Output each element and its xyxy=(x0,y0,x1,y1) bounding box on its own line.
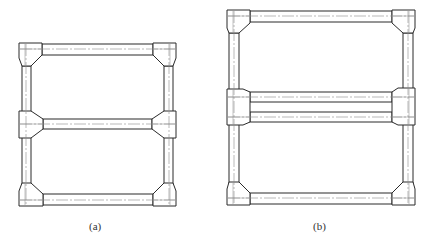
frame-b xyxy=(227,10,415,205)
beam-b-top xyxy=(250,11,392,22)
beam-a-bottom xyxy=(43,194,153,205)
joint-a-bottom-right xyxy=(153,183,176,206)
joint-b-bottom-left xyxy=(227,182,250,205)
joint-a-top-left xyxy=(19,43,42,66)
caption-b: (b) xyxy=(313,220,326,232)
joint-b-middle-right xyxy=(392,88,415,125)
joint-b-middle-left xyxy=(227,89,250,125)
column-a-right-upper xyxy=(164,66,173,112)
beam-a-top xyxy=(42,44,153,55)
joint-a-middle-left xyxy=(19,111,43,138)
frame-diagram xyxy=(0,0,426,247)
column-a-right-lower xyxy=(164,136,173,184)
joint-b-top-right xyxy=(392,10,415,33)
beam-b-bottom xyxy=(250,193,392,204)
column-a-left-upper xyxy=(22,66,31,112)
joint-b-top-left xyxy=(227,10,250,33)
column-a-left-lower xyxy=(22,136,31,184)
joint-a-middle-right xyxy=(152,111,176,138)
caption-a: (a) xyxy=(89,220,101,232)
joint-a-bottom-left xyxy=(19,183,43,206)
joint-b-bottom-right xyxy=(392,182,415,205)
joint-a-top-right xyxy=(153,43,176,66)
frame-a xyxy=(19,43,176,206)
